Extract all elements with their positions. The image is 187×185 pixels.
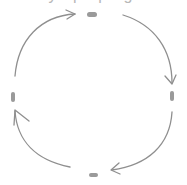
arrow-bottom-to-left: [14, 110, 70, 167]
node-top: [87, 12, 97, 17]
cycle-diagram: [0, 0, 187, 185]
arrow-right-to-bottom: [111, 112, 172, 174]
node-right: [170, 91, 174, 101]
node-bottom: [89, 173, 98, 177]
arrow-left-to-top: [15, 10, 75, 76]
node-left: [11, 92, 15, 102]
arrow-top-to-right: [123, 15, 176, 84]
